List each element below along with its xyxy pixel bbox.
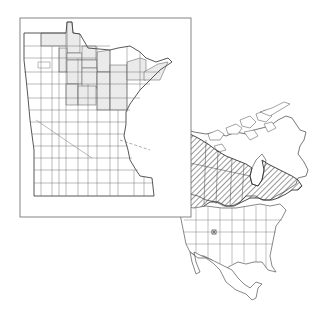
distribution-figure bbox=[0, 0, 331, 325]
minnesota-map-panel bbox=[20, 18, 191, 217]
minnesota-frame bbox=[20, 18, 191, 217]
disjunct-population-marker bbox=[212, 230, 216, 234]
map-canvas bbox=[0, 0, 331, 325]
